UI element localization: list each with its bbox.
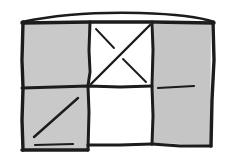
right-tall-panel-fill [153,23,211,145]
vertical-divider-right [152,22,153,144]
top-left-panel-fill [24,23,89,87]
frame-bottom-edge-center [88,144,152,145]
bottom-left-horizontal-dash [35,144,73,145]
frame-top-edge [22,22,214,23]
hand-drawn-grid-figure: hand-drawn grid sketch Freehand ink draw… [0,0,228,158]
frame-left-edge [22,22,23,150]
sketch-canvas: hand-drawn grid sketch Freehand ink draw… [0,0,228,158]
